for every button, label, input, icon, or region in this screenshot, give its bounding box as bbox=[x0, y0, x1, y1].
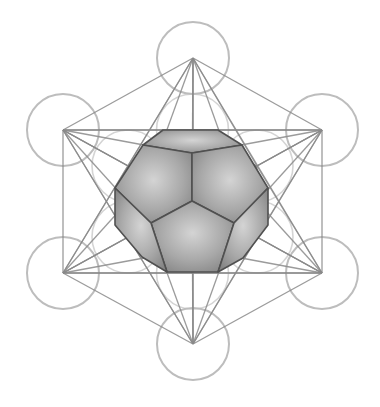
connecting-line bbox=[193, 273, 322, 344]
connecting-line bbox=[63, 58, 193, 130]
connecting-line bbox=[193, 273, 194, 344]
metatrons-cube-diagram: Metatron's Cube with Dodecahedron bbox=[0, 0, 380, 407]
dodecahedron bbox=[115, 130, 268, 272]
diagram-canvas bbox=[0, 0, 380, 407]
connecting-line bbox=[193, 58, 322, 130]
connecting-line bbox=[63, 273, 193, 344]
